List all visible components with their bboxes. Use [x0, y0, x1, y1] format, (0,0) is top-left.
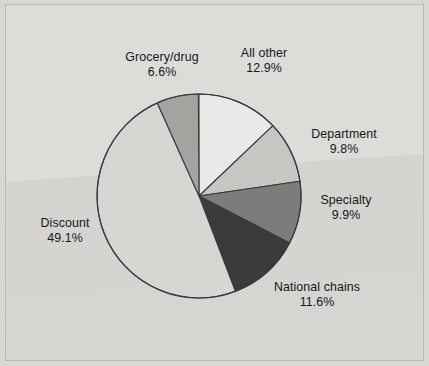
- pie-label-specialty-name: Specialty: [306, 193, 386, 208]
- pie-label-all-other-name: All other: [222, 46, 306, 61]
- pie-chart-plot-area: Grocery/drug 6.6% All other 12.9% Depart…: [0, 0, 429, 366]
- pie-label-grocery-drug-name: Grocery/drug: [114, 50, 210, 65]
- pie-label-national-chains: National chains 11.6%: [256, 280, 378, 309]
- pie-label-discount-value: 49.1%: [25, 231, 105, 246]
- pie-label-department-value: 9.8%: [292, 142, 396, 157]
- pie-label-all-other-value: 12.9%: [222, 61, 306, 76]
- pie-slice-group: [97, 94, 301, 298]
- pie-label-all-other: All other 12.9%: [222, 46, 306, 75]
- pie-label-national-chains-name: National chains: [256, 280, 378, 295]
- pie-label-grocery-drug-value: 6.6%: [114, 65, 210, 80]
- pie-label-grocery-drug: Grocery/drug 6.6%: [114, 50, 210, 79]
- pie-label-department: Department 9.8%: [292, 127, 396, 156]
- pie-label-discount-name: Discount: [25, 216, 105, 231]
- pie-label-specialty-value: 9.9%: [306, 208, 386, 223]
- pie-label-specialty: Specialty 9.9%: [306, 193, 386, 222]
- pie-chart-svg: [0, 0, 429, 366]
- chart-figure: Grocery/drug 6.6% All other 12.9% Depart…: [0, 0, 429, 366]
- pie-label-national-chains-value: 11.6%: [256, 295, 378, 310]
- pie-label-discount: Discount 49.1%: [25, 216, 105, 245]
- pie-label-department-name: Department: [292, 127, 396, 142]
